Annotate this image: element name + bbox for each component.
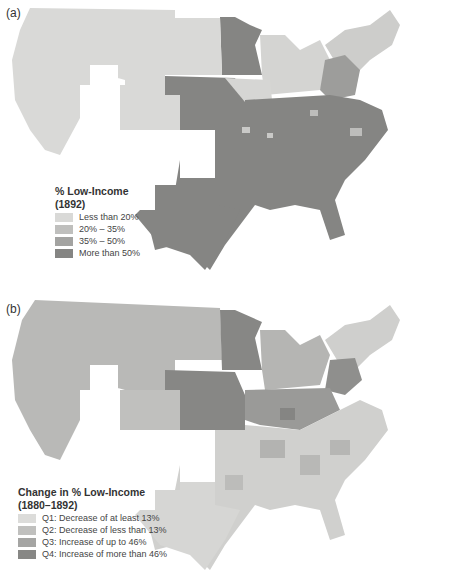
legend-item: 20% – 35% xyxy=(55,223,140,235)
legend-swatch xyxy=(18,538,36,547)
legend-item: More than 50% xyxy=(55,247,140,259)
map-panel-a: (a) % Low-Income (1892) Less than 20% 20… xyxy=(0,0,449,290)
panel-label-a: (a) xyxy=(6,6,21,20)
legend-swatch xyxy=(18,526,36,535)
legend-panel-a: % Low-Income (1892) Less than 20% 20% – … xyxy=(55,185,140,259)
legend-item: Q1: Decrease of at least 13% xyxy=(18,512,167,524)
legend-swatch xyxy=(55,225,73,234)
legend-label: 35% – 50% xyxy=(79,236,125,246)
legend-item: 35% – 50% xyxy=(55,235,140,247)
legend-item: Less than 20% xyxy=(55,211,140,223)
legend-subtitle: (1892) xyxy=(55,198,140,211)
legend-title: Change in % Low-Income xyxy=(18,486,167,499)
panel-label-b: (b) xyxy=(6,302,21,316)
legend-label: More than 50% xyxy=(79,248,140,258)
legend-label: Q4: Increase of more than 46% xyxy=(42,549,167,559)
legend-swatch xyxy=(55,249,73,258)
legend-label: Q1: Decrease of at least 13% xyxy=(42,513,160,523)
legend-panel-b: Change in % Low-Income (1880–1892) Q1: D… xyxy=(18,486,167,560)
legend-item: Q4: Increase of more than 46% xyxy=(18,548,167,560)
legend-item: Q3: Increase of up to 46% xyxy=(18,536,167,548)
legend-item: Q2: Decrease of less than 13% xyxy=(18,524,167,536)
legend-title: % Low-Income xyxy=(55,185,140,198)
legend-subtitle: (1880–1892) xyxy=(18,499,167,512)
legend-swatch xyxy=(55,213,73,222)
legend-swatch xyxy=(18,514,36,523)
legend-swatch xyxy=(55,237,73,246)
legend-label: 20% – 35% xyxy=(79,224,125,234)
map-panel-b: (b) Change in % Low-Income (1880–1892) Q… xyxy=(0,290,449,579)
legend-label: Less than 20% xyxy=(79,212,139,222)
legend-label: Q3: Increase of up to 46% xyxy=(42,537,147,547)
legend-label: Q2: Decrease of less than 13% xyxy=(42,525,167,535)
legend-swatch xyxy=(18,550,36,559)
